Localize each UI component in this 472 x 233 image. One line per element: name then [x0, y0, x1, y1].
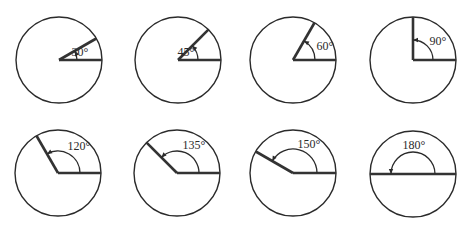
- angle-figure-120: 120°: [15, 130, 101, 216]
- angle-label: 60°: [317, 39, 334, 53]
- angle-figure-180: 180°: [370, 131, 456, 217]
- angle-figure-90: 90°: [370, 17, 456, 103]
- angle-label: 120°: [68, 139, 91, 153]
- angle-figure-60: 60°: [250, 17, 336, 103]
- angle-figure-135: 135°: [134, 130, 220, 216]
- angle-label: 135°: [183, 138, 206, 152]
- angle-diagram: 30°45°60°90°120°135°150°180°: [0, 0, 472, 233]
- angle-arc: [272, 149, 317, 173]
- angle-label: 150°: [298, 137, 321, 151]
- rotated-ray: [37, 136, 59, 173]
- angle-label: 90°: [430, 34, 447, 48]
- angle-figure-45: 45°: [135, 17, 221, 103]
- angle-label: 45°: [178, 45, 195, 59]
- rotated-ray: [256, 152, 293, 174]
- angle-label: 180°: [403, 138, 426, 152]
- angle-figure-150: 150°: [250, 130, 336, 216]
- angle-figure-30: 30°: [16, 17, 102, 103]
- angle-diagram-canvas: 30°45°60°90°120°135°150°180°: [0, 0, 472, 233]
- angle-arc: [391, 152, 435, 174]
- angle-label: 30°: [72, 45, 89, 59]
- angle-arc: [304, 41, 315, 60]
- arrowhead-icon: [161, 152, 166, 157]
